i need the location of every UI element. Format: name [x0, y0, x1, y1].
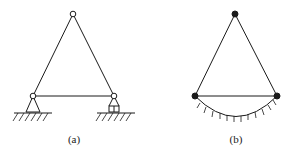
pin-support-icon	[13, 96, 52, 121]
hinge-bottom-left-icon	[30, 93, 36, 99]
ground-hatching	[13, 113, 48, 121]
curved-ground-icon	[195, 96, 277, 122]
node-bottom-left-icon	[192, 93, 198, 99]
roller-support-icon	[96, 96, 135, 121]
member-right	[73, 14, 114, 96]
node-bottom-right-icon	[274, 93, 280, 99]
hinge-top-icon	[70, 11, 76, 17]
figure-b-label: (b)	[230, 133, 243, 145]
figure-a	[13, 11, 135, 121]
hinge-bottom-right-icon	[111, 93, 117, 99]
member-right	[235, 14, 277, 96]
member-left	[33, 14, 73, 96]
figure-a-label: (a)	[68, 133, 80, 145]
figure-b	[192, 11, 280, 122]
ground-hatching	[96, 113, 131, 121]
node-top-icon	[232, 11, 238, 17]
diagram-canvas	[0, 0, 294, 155]
member-left	[195, 14, 235, 96]
